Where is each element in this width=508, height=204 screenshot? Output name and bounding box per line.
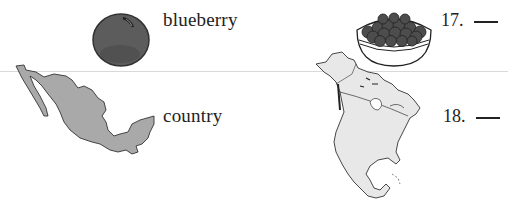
mexico-map-icon xyxy=(14,64,159,166)
north-america-map-icon xyxy=(312,50,432,202)
word-blueberry: blueberry xyxy=(163,9,238,31)
answer-blank-18[interactable] xyxy=(476,117,500,119)
word-country: country xyxy=(163,105,222,127)
blueberry-icon xyxy=(90,10,152,68)
answer-blank-17[interactable] xyxy=(474,21,498,23)
question-17: 17. xyxy=(441,10,498,31)
question-number: 17. xyxy=(441,10,464,30)
question-number: 18. xyxy=(443,106,466,126)
question-18: 18. xyxy=(443,106,500,127)
